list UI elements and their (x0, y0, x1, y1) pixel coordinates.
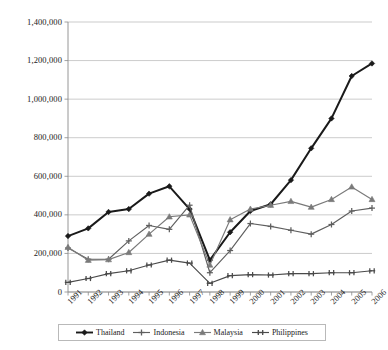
legend-item-indonesia[interactable]: Indonesia (133, 328, 184, 337)
legend-label: Philippines (272, 328, 308, 337)
series-thailand (65, 61, 374, 263)
y-axis-label: 400,000 (0, 209, 62, 219)
data-point (65, 244, 71, 249)
data-point (288, 198, 294, 203)
legend-item-philippines[interactable]: Philippines (252, 328, 308, 337)
data-point (227, 217, 233, 222)
chart-legend: ThailandIndonesiaMalaysiaPhilippines (58, 324, 326, 341)
series-indonesia (65, 202, 375, 276)
series-line (68, 260, 372, 283)
y-axis-label: 200,000 (0, 248, 62, 258)
data-point (328, 196, 334, 201)
y-axis-label: 1,000,000 (0, 94, 62, 104)
y-axis-label: 1,400,000 (0, 17, 62, 27)
data-point (65, 233, 70, 238)
series-line (68, 205, 372, 273)
y-axis-label: 0 (0, 287, 62, 297)
data-point (349, 184, 355, 189)
legend-label: Indonesia (153, 328, 184, 337)
legend-marker-triangle-icon (194, 328, 211, 337)
legend-marker-diamond-icon (76, 328, 93, 337)
legend-label: Thailand (96, 328, 124, 337)
legend-label: Malaysia (214, 328, 243, 337)
data-point (369, 196, 375, 201)
legend-marker-plus-icon (133, 328, 150, 337)
y-axis-label: 600,000 (0, 171, 62, 181)
legend-marker-cross-icon (252, 328, 269, 337)
legend-item-malaysia[interactable]: Malaysia (194, 328, 243, 337)
y-axis-label: 800,000 (0, 132, 62, 142)
y-axis-label: 1,200,000 (0, 55, 62, 65)
legend-item-thailand[interactable]: Thailand (76, 328, 124, 337)
series-line (68, 63, 372, 260)
data-point (82, 330, 87, 335)
